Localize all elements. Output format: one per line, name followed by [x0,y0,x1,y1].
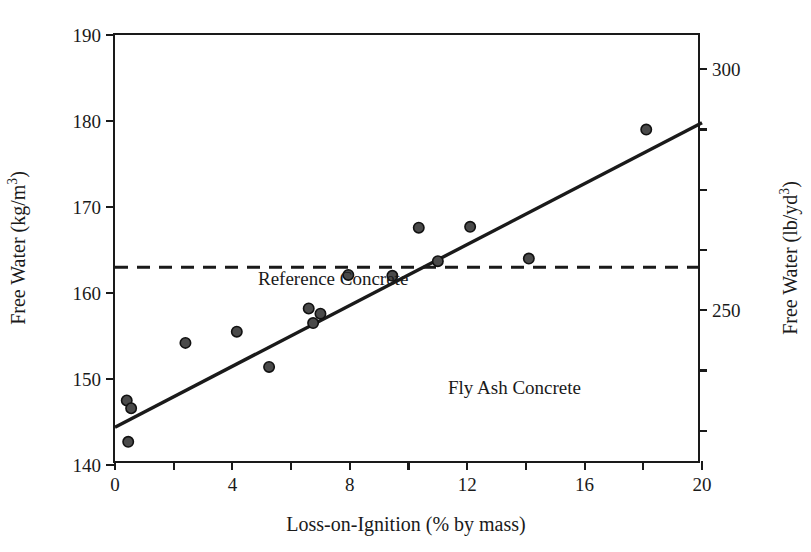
x-tick-label-16: 16 [575,475,594,494]
x-tick-12 [466,461,468,470]
y-tick-label-right-250: 250 [712,301,741,320]
data-point-3 [180,338,190,348]
y-tick-label-left-170: 170 [73,198,102,217]
y-tick-right-275 [698,189,707,191]
x-tick-20 [701,461,703,470]
y-tick-label-left-180: 180 [73,112,102,131]
y-axis-title-left: Free Water (kg/m3) [7,171,30,325]
x-tick-18 [642,461,644,470]
y-tick-right-237.5 [698,369,707,371]
annotation-reference-concrete: Reference Concrete [258,269,408,288]
y-tick-left-180 [106,120,115,122]
y-tick-label-left-150: 150 [73,370,102,389]
annotation-fly-ash-concrete: Fly Ash Concrete [448,378,581,397]
chart-root: Free Water (kg/m3) Free Water (lb/yd3) L… [0,0,811,552]
y-axis-title-left-tail: ) [7,171,29,178]
data-point-2 [123,437,133,447]
data-point-6 [304,303,314,313]
y-tick-left-150 [106,378,115,380]
data-point-12 [433,256,443,266]
y-tick-right-300 [698,68,707,70]
y-axis-title-right: Free Water (lb/yd3) [779,181,802,335]
y-axis-title-right-text: Free Water (lb/yd [779,195,801,335]
y-tick-right-225 [698,430,707,432]
plot-frame: Reference Concrete Fly Ash Concrete 1401… [113,33,700,463]
data-point-14 [524,253,534,263]
data-point-7 [308,318,318,328]
x-tick-label-0: 0 [110,475,120,494]
x-tick-label-20: 20 [693,475,712,494]
data-point-11 [414,222,424,232]
y-tick-label-left-160: 160 [73,284,102,303]
y-axis-title-right-exponent: 3 [777,188,792,195]
x-tick-8 [349,461,351,470]
data-point-4 [232,327,242,337]
y-tick-right-287.5 [698,128,707,130]
x-tick-label-12: 12 [458,475,477,494]
data-point-8 [315,308,325,318]
x-tick-6 [290,461,292,470]
x-tick-14 [525,461,527,470]
x-tick-4 [231,461,233,470]
x-tick-16 [584,461,586,470]
y-tick-label-right-300: 300 [712,60,741,79]
y-tick-label-left-140: 140 [73,456,102,475]
y-tick-left-160 [106,292,115,294]
x-tick-label-8: 8 [345,475,355,494]
y-tick-label-left-190: 190 [73,26,102,45]
y-tick-right-262.5 [698,249,707,251]
y-axis-title-left-exponent: 3 [5,178,20,185]
data-point-5 [264,362,274,372]
x-tick-label-4: 4 [228,475,238,494]
y-axis-title-left-text: Free Water (kg/m [7,185,29,325]
data-point-13 [465,222,475,232]
x-axis-title: Loss-on-Ignition (% by mass) [286,513,525,536]
y-axis-title-right-tail: ) [779,181,801,188]
x-tick-10 [407,461,409,470]
fly-ash-trend-line-path [115,123,702,427]
x-tick-0 [114,461,116,470]
series-layer [115,35,702,465]
y-tick-left-170 [106,206,115,208]
x-tick-2 [173,461,175,470]
y-tick-left-190 [106,34,115,36]
data-point-15 [641,124,651,134]
fly-ash-trend-line [115,123,702,427]
data-point-1 [126,403,136,413]
y-tick-right-250 [698,309,707,311]
